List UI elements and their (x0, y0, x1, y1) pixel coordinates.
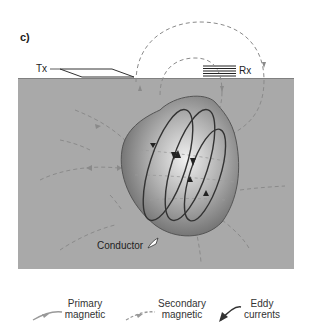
legend-primary: Primary magnetic (60, 298, 110, 320)
primary-magnetic-legend-icon (33, 312, 62, 320)
secondary-magnetic-legend-icon (126, 312, 155, 320)
legend-secondary: Secondary magnetic (152, 298, 212, 320)
em-induction-diagram (0, 0, 311, 325)
tx-label: Tx (36, 63, 47, 74)
rx-label: Rx (239, 65, 251, 76)
eddy-currents-legend-icon (219, 307, 241, 322)
rx-coil-icon (203, 66, 236, 76)
conductor-label: Conductor (97, 240, 143, 251)
tx-loop-icon (60, 69, 134, 77)
legend-eddy: Eddy currents (240, 298, 284, 320)
